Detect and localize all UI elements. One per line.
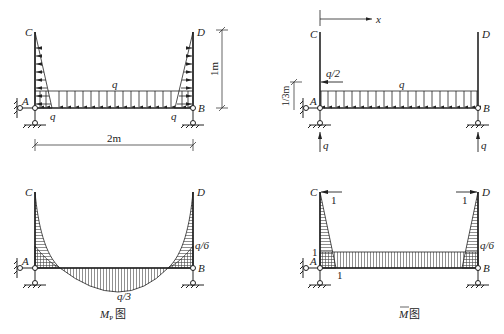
node-label-d: D xyxy=(481,186,490,198)
node-label-c: C xyxy=(25,186,33,198)
uniform-load-label: q xyxy=(399,78,405,90)
mp-caption: MP图 xyxy=(99,308,126,322)
mp-beam-parabola xyxy=(60,268,168,292)
mp-mid-value: q/3 xyxy=(117,290,132,302)
support-left xyxy=(14,98,46,128)
mbar-caption: M图 xyxy=(398,308,420,320)
node-label-a: A xyxy=(309,95,317,107)
unit-force-label-right: 1 xyxy=(462,194,468,206)
node-label-d: D xyxy=(196,186,205,198)
uniform-load-arrows xyxy=(40,91,188,107)
triangular-load-right xyxy=(175,32,193,108)
x-axis-label: x xyxy=(375,13,381,25)
node-label-b: B xyxy=(483,262,490,274)
right-tri-load-label: q xyxy=(171,110,177,122)
mbar-beam-area xyxy=(320,252,478,268)
node-label-d: D xyxy=(196,26,205,38)
dimension-height-label: 1/3m xyxy=(280,86,291,107)
mbar-right-column-value: q/6 xyxy=(480,239,495,251)
node-label-b: B xyxy=(198,102,205,114)
dimension-height-label: 1m xyxy=(208,62,220,77)
mp-right-value: q/6 xyxy=(195,239,210,251)
unit-load-panel: x q/2 q xyxy=(280,10,490,152)
load-diagram-panel: 1m 2m C D A B q q q xyxy=(14,26,228,151)
node-label-c: C xyxy=(310,28,318,40)
mp-diagram-panel: C D A B q/6 q/3 MP图 xyxy=(14,186,210,322)
triangular-load-right-arrows xyxy=(177,48,192,104)
dimension-span-label: 2m xyxy=(107,132,122,144)
node-label-d: D xyxy=(481,28,490,40)
dimension-height xyxy=(290,79,302,110)
node-label-c: C xyxy=(310,186,318,198)
node-label-b: B xyxy=(198,262,205,274)
node-label-a: A xyxy=(21,95,29,107)
node-label-a: A xyxy=(21,255,29,267)
triangular-load-left-arrows xyxy=(36,48,51,104)
horizontal-force-label: q/2 xyxy=(326,67,341,79)
unit-force-label-left: 1 xyxy=(331,194,337,206)
node-label-c: C xyxy=(25,26,33,38)
uniform-load-label: q xyxy=(112,78,118,90)
mbar-left-beam-value: 1 xyxy=(337,269,343,281)
reaction-label-right: q xyxy=(481,139,487,151)
reaction-label-left: q xyxy=(323,139,329,151)
mbar-diagram-panel: 1 1 C D A B 1 1 q/6 M xyxy=(300,186,495,320)
left-tri-load-label: q xyxy=(50,110,56,122)
mbar-left-column-value: 1 xyxy=(312,246,318,258)
node-label-b: B xyxy=(483,102,490,114)
triangular-load-left xyxy=(35,32,52,108)
uniform-load-arrows xyxy=(321,91,477,107)
